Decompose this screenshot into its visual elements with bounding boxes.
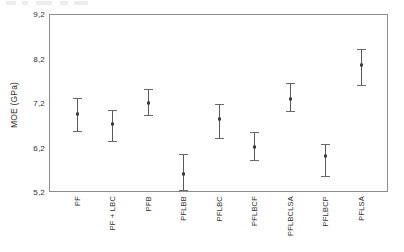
mean-marker xyxy=(360,64,363,67)
error-bar xyxy=(148,89,149,116)
error-bar-cap-upper xyxy=(321,144,330,145)
x-axis-tick-label: PF + LBC xyxy=(108,196,117,230)
error-bar-stem xyxy=(112,110,113,142)
error-bar-cap-upper xyxy=(108,110,117,111)
error-bar-cap-upper xyxy=(73,98,82,99)
x-axis-tick-label: PFLBCP xyxy=(321,196,330,226)
mean-marker xyxy=(147,101,150,104)
y-axis-tick-label: 5,2 xyxy=(33,188,45,197)
mean-marker xyxy=(76,113,79,116)
error-bar xyxy=(77,98,78,132)
error-bar xyxy=(254,132,255,161)
chart-figure: MOE (GPa) 5,26,27,28,29,2 PFPF + LBCPFBP… xyxy=(0,0,404,252)
error-bar-cap-lower xyxy=(250,160,259,161)
error-bar-cap-upper xyxy=(250,132,259,133)
y-axis-tick-label: 8,2 xyxy=(33,54,45,63)
mean-marker xyxy=(182,172,185,175)
error-bar xyxy=(112,110,113,142)
mean-marker xyxy=(253,146,256,149)
error-bar-cap-lower xyxy=(215,138,224,139)
error-bar-cap-lower xyxy=(144,115,153,116)
mean-marker xyxy=(218,117,221,120)
error-bar-cap-upper xyxy=(357,49,366,50)
x-axis-tick-label: PFB xyxy=(144,196,153,211)
error-bar-cap-lower xyxy=(286,111,295,112)
mean-marker xyxy=(111,123,114,126)
y-axis-tick-label: 7,2 xyxy=(33,99,45,108)
x-axis-tick-label: PF xyxy=(73,196,82,206)
mean-marker xyxy=(324,155,327,158)
x-axis-tick-label: PFLBB xyxy=(179,196,188,221)
error-bar xyxy=(325,144,326,177)
y-axis-tick-label: 6,2 xyxy=(33,143,45,152)
x-axis-tick-label: PFLSA xyxy=(357,196,366,221)
error-bar-cap-lower xyxy=(73,131,82,132)
plot-area xyxy=(49,14,388,192)
error-bar-cap-lower xyxy=(357,85,366,86)
error-bar-cap-upper xyxy=(286,83,295,84)
error-bar xyxy=(290,83,291,113)
error-bar-stem xyxy=(325,144,326,177)
error-bar xyxy=(361,49,362,85)
error-bar-cap-upper xyxy=(215,104,224,105)
error-bar-cap-lower xyxy=(179,190,188,191)
error-bar-cap-upper xyxy=(179,154,188,155)
error-bar-cap-lower xyxy=(321,176,330,177)
error-bar xyxy=(183,154,184,190)
error-bar xyxy=(219,104,220,139)
y-axis-tick-labels: 5,26,27,28,29,2 xyxy=(0,0,45,252)
error-bar-stem xyxy=(219,104,220,139)
error-bar-cap-upper xyxy=(144,89,153,90)
x-axis-tick-label: PFLBCLSA xyxy=(286,196,295,236)
error-bar-cap-lower xyxy=(108,141,117,142)
y-axis-tick-label: 9,2 xyxy=(33,10,45,19)
x-axis-tick-label: PFLBC xyxy=(215,196,224,221)
mean-marker xyxy=(289,97,292,100)
x-axis-tick-labels: PFPF + LBCPFBPFLBBPFLBCPFLBCFPFLBCLSAPFL… xyxy=(49,193,388,252)
x-axis-tick-label: PFLBCF xyxy=(250,196,259,226)
error-bar-stem xyxy=(361,49,362,85)
scan-artifact-strip xyxy=(0,0,404,7)
